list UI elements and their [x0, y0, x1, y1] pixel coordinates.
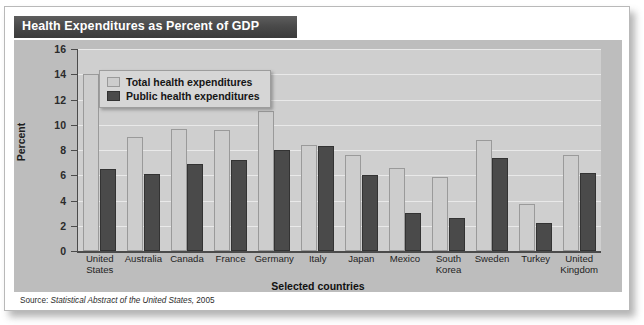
- bar-total: [432, 177, 448, 251]
- bar-total: [476, 140, 492, 251]
- y-tick-mark: [71, 175, 77, 176]
- legend-item-total: Total health expenditures: [107, 75, 260, 88]
- y-axis-line: [77, 49, 78, 252]
- chart-card: Health Expenditures as Percent of GDP 02…: [4, 6, 630, 311]
- bar-total: [258, 111, 274, 251]
- bar-public: [492, 158, 508, 251]
- bar-public: [187, 164, 203, 251]
- y-tick-label: 0: [26, 245, 66, 257]
- bar-total: [83, 74, 99, 251]
- bar-total: [301, 145, 317, 251]
- y-tick-mark: [71, 226, 77, 227]
- legend-swatch-total-icon: [107, 77, 120, 87]
- y-tick-label: 14: [26, 68, 66, 80]
- bar-public: [144, 174, 160, 251]
- y-tick-label: 6: [26, 169, 66, 181]
- source-prefix: Source:: [20, 296, 48, 305]
- x-tick-label: UnitedKingdom: [551, 254, 607, 275]
- x-tick-label-line: States: [72, 265, 128, 276]
- y-tick-label: 12: [26, 94, 66, 106]
- bar-public: [231, 160, 247, 251]
- y-axis-title: Percent: [15, 123, 27, 162]
- bar-public: [274, 150, 290, 251]
- y-tick: 6: [18, 175, 66, 176]
- x-tick-label-line: Korea: [421, 265, 477, 276]
- bar-total: [563, 155, 579, 251]
- chart-figure: Health Expenditures as Percent of GDP 02…: [0, 0, 644, 325]
- source-year: 2005: [196, 296, 214, 305]
- y-tick-mark: [71, 74, 77, 75]
- y-tick-mark: [71, 251, 77, 252]
- y-tick-mark: [71, 100, 77, 101]
- legend-swatch-public-icon: [107, 91, 120, 101]
- x-tick-label-line: United: [551, 254, 607, 265]
- y-tick-label: 4: [26, 195, 66, 207]
- bar-total: [345, 155, 361, 251]
- chart-panel: 0246810121416 Percent Total health expen…: [14, 40, 622, 292]
- y-tick-mark: [71, 125, 77, 126]
- bar-total: [389, 168, 405, 251]
- bar-total: [127, 137, 143, 251]
- legend-label-total: Total health expenditures: [126, 76, 252, 88]
- chart-legend: Total health expenditures Public health …: [99, 70, 271, 108]
- y-tick-label: 2: [26, 220, 66, 232]
- y-tick: 2: [18, 226, 66, 227]
- y-tick: 12: [18, 100, 66, 101]
- chart-title-bar: Health Expenditures as Percent of GDP: [14, 16, 297, 38]
- bar-total: [214, 130, 230, 251]
- gridline: [78, 150, 601, 151]
- gridline: [78, 125, 601, 126]
- bar-public: [318, 146, 334, 251]
- bar-public: [449, 218, 465, 251]
- y-tick-mark: [71, 150, 77, 151]
- bar-public: [100, 169, 116, 251]
- bar-public: [580, 173, 596, 251]
- legend-item-public: Public health expenditures: [107, 89, 260, 102]
- y-tick: 16: [18, 49, 66, 50]
- y-tick-label: 16: [26, 43, 66, 55]
- y-tick: 14: [18, 74, 66, 75]
- bar-public: [536, 223, 552, 251]
- bar-public: [362, 175, 378, 251]
- x-axis-title: Selected countries: [14, 280, 622, 292]
- bar-total: [171, 129, 187, 251]
- x-tick-label-line: Kingdom: [551, 265, 607, 276]
- gridline: [78, 49, 601, 50]
- page-title: Health Expenditures as Percent of GDP: [22, 19, 259, 33]
- y-tick: 4: [18, 201, 66, 202]
- bar-total: [519, 204, 535, 251]
- y-tick: 0: [18, 251, 66, 252]
- y-tick-mark: [71, 201, 77, 202]
- legend-label-public: Public health expenditures: [126, 90, 260, 102]
- bar-public: [405, 213, 421, 251]
- source-note: Source: Statistical Abstract of the Unit…: [20, 296, 215, 305]
- y-tick-mark: [71, 49, 77, 50]
- y-tick-label: 10: [26, 119, 66, 131]
- y-tick-label: 8: [26, 144, 66, 156]
- source-publication: Statistical Abstract of the United State…: [51, 296, 195, 305]
